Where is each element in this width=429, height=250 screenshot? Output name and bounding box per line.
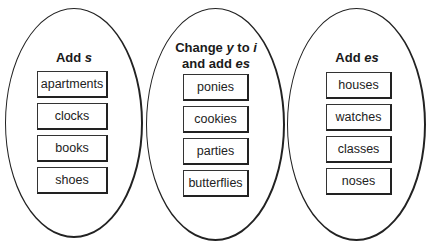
title-text: Add bbox=[335, 50, 364, 65]
word-box: cookies bbox=[183, 106, 249, 133]
title-text: Change bbox=[175, 40, 226, 55]
word-box: books bbox=[37, 135, 108, 162]
title-emphasis: y bbox=[226, 40, 233, 55]
group-change-y-title: Change y to i and add es bbox=[146, 40, 286, 72]
word-box: ponies bbox=[183, 74, 249, 101]
word-box: classes bbox=[326, 136, 392, 163]
title-line-2: and add es bbox=[146, 56, 286, 72]
title-text: to bbox=[234, 40, 254, 55]
word-box: shoes bbox=[37, 167, 108, 194]
word-box: clocks bbox=[37, 103, 108, 130]
word-box: houses bbox=[326, 72, 392, 99]
title-emphasis: i bbox=[253, 40, 257, 55]
title-line-1: Change y to i bbox=[146, 40, 286, 56]
word-box: noses bbox=[326, 168, 392, 195]
title-text: and add bbox=[182, 56, 235, 71]
word-box: butterflies bbox=[183, 170, 249, 197]
title-emphasis: s bbox=[85, 50, 92, 65]
group-add-s-title: Add s bbox=[4, 50, 144, 66]
word-box: watches bbox=[326, 104, 392, 131]
title-emphasis: es bbox=[364, 50, 378, 65]
group-add-es-title: Add es bbox=[287, 50, 427, 66]
word-box: apartments bbox=[37, 71, 108, 98]
title-emphasis: es bbox=[235, 56, 249, 71]
title-text: Add bbox=[56, 50, 85, 65]
word-box: parties bbox=[183, 138, 249, 165]
